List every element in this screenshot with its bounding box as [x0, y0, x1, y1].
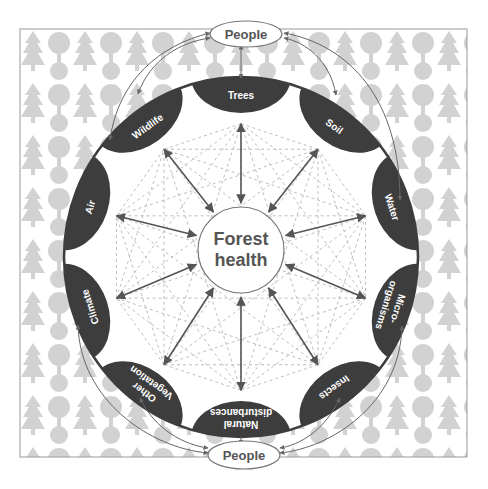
center-node: Forest health [198, 207, 284, 293]
center-label-line2: health [214, 250, 267, 270]
people-node-top: People [210, 21, 282, 47]
forest-health-diagram: Forest health People People TreesSoilWat… [0, 0, 488, 489]
people-top-label: People [225, 27, 268, 42]
component-label-trees: Trees [228, 90, 255, 101]
people-bottom-label: People [223, 448, 266, 463]
center-label-line1: Forest [213, 229, 268, 249]
people-node-bottom: People [208, 441, 280, 469]
